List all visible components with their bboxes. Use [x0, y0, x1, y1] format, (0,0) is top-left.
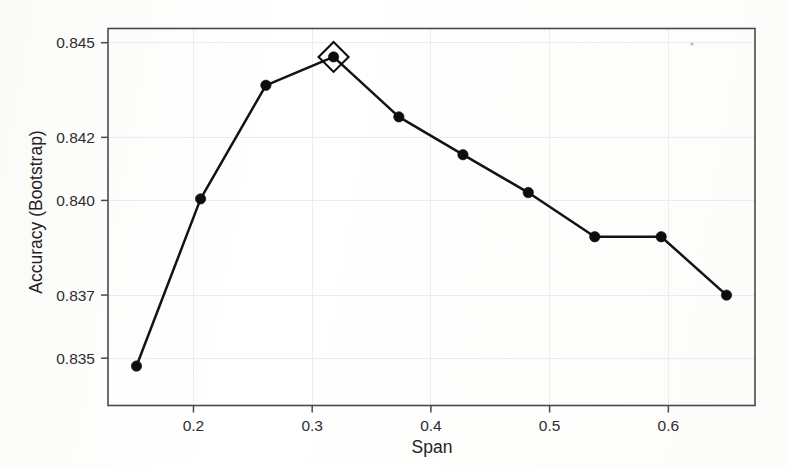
x-tick-label: 0.3: [301, 417, 323, 434]
y-axis-tick-labels: 0.8350.8370.8400.8420.845: [56, 34, 95, 366]
data-point: [458, 149, 468, 159]
plot-frame: [108, 29, 755, 406]
x-tick-label: 0.6: [658, 417, 680, 434]
y-tick-label: 0.842: [56, 129, 95, 146]
line-chart: 0.8350.8370.8400.8420.845 0.20.30.40.50.…: [0, 0, 788, 467]
x-tick-label: 0.5: [539, 417, 561, 434]
scan-speck: [690, 42, 693, 45]
accuracy-series-points: [131, 52, 731, 372]
data-point: [523, 187, 533, 197]
grid-lines: [108, 29, 755, 406]
data-point: [656, 232, 666, 242]
data-point: [328, 52, 338, 62]
y-axis-title: Accuracy (Bootstrap): [26, 130, 46, 293]
y-tick-label: 0.840: [56, 192, 95, 209]
x-axis-ticks: [193, 406, 668, 413]
x-axis-title: Span: [412, 437, 453, 457]
y-tick-label: 0.837: [56, 287, 95, 304]
data-point: [195, 194, 205, 204]
chart-page: 0.8350.8370.8400.8420.845 0.20.30.40.50.…: [0, 0, 788, 467]
x-tick-label: 0.2: [183, 417, 205, 434]
x-axis-tick-labels: 0.20.30.40.50.6: [183, 417, 679, 434]
y-tick-label: 0.835: [56, 350, 95, 367]
data-point: [721, 290, 731, 300]
data-point: [394, 112, 404, 122]
y-tick-label: 0.845: [56, 34, 95, 51]
data-point: [590, 232, 600, 242]
y-axis-ticks: [101, 43, 108, 358]
data-point: [131, 361, 141, 371]
accuracy-series-line: [136, 57, 726, 366]
x-tick-label: 0.4: [420, 417, 442, 434]
data-point: [261, 80, 271, 90]
